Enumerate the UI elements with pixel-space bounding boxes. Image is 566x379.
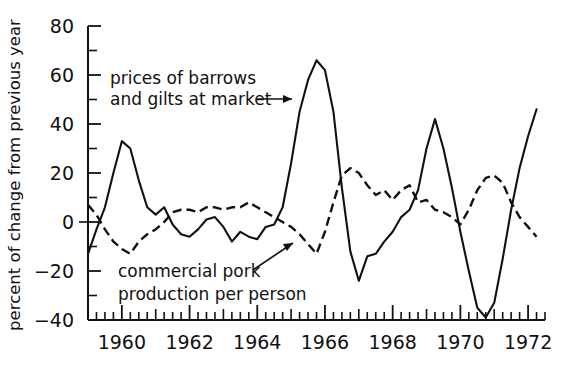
y-tick-label: 80: [50, 15, 74, 37]
y-axis-tick-labels: −40−20020406080: [34, 15, 74, 331]
production-annotation-line-1: commercial pork: [118, 261, 261, 281]
prices-annotation-line-2: and gilts at market: [110, 89, 272, 109]
prices-annotation: prices of barrows and gilts at market: [110, 68, 292, 109]
y-tick-label: 60: [50, 64, 74, 86]
line-chart: −40−20020406080 196019621964196619681970…: [0, 0, 566, 379]
production-annotation-arrow-head: [283, 243, 293, 251]
x-tick-label: 1960: [98, 331, 146, 353]
y-axis-title: percent of change from previous year: [5, 19, 24, 331]
y-tick-label: −20: [34, 260, 74, 282]
x-axis-tick-labels: 1960196219641966196819701972: [98, 331, 553, 353]
x-tick-label: 1972: [504, 331, 552, 353]
y-tick-label: 20: [50, 162, 74, 184]
x-tick-label: 1966: [301, 331, 349, 353]
production-annotation-line-2: production per person: [118, 284, 307, 304]
x-tick-label: 1962: [165, 331, 213, 353]
y-axis-ticks: [79, 26, 101, 320]
production-annotation: commercial pork production per person: [118, 243, 307, 304]
y-tick-label: 0: [62, 211, 74, 233]
y-tick-label: 40: [50, 113, 74, 135]
prices-annotation-arrow-head: [283, 95, 292, 103]
chart-page: −40−20020406080 196019621964196619681970…: [0, 0, 566, 379]
prices-annotation-line-1: prices of barrows: [110, 68, 256, 88]
y-tick-label: −40: [34, 309, 74, 331]
series-commercial-pork-production: [88, 168, 537, 254]
x-tick-label: 1970: [436, 331, 484, 353]
x-tick-label: 1964: [233, 331, 281, 353]
x-tick-label: 1968: [368, 331, 416, 353]
